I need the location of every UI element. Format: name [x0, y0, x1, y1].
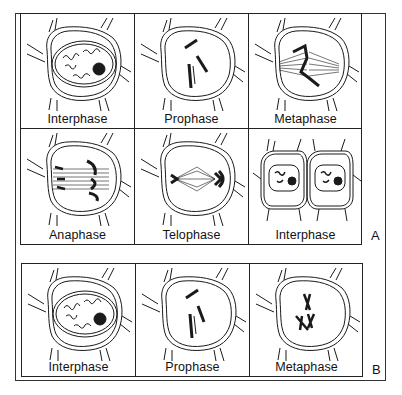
cell-b-metaphase: Metaphase — [250, 264, 363, 376]
series-b-grid: Interphase Prophase Metaphase — [21, 263, 363, 377]
stage-label: Interphase — [21, 112, 134, 126]
cell-a-anaphase: Anaphase — [21, 129, 135, 244]
cell-a-interphase-daughters: Interphase — [249, 129, 362, 244]
telophase-spindle-icon — [135, 129, 249, 227]
stage-label: Anaphase — [21, 228, 134, 242]
metaphase-x-chromosomes-icon — [250, 264, 363, 362]
stage-label: Prophase — [136, 360, 249, 374]
stage-label: Interphase — [22, 360, 135, 374]
cell-a-prophase: Prophase — [135, 14, 249, 129]
stage-label: Metaphase — [249, 112, 362, 126]
two-daughter-cells-icon — [249, 129, 362, 227]
prophase-chromosomes-icon — [135, 14, 249, 112]
cell-a-interphase: Interphase — [21, 14, 135, 129]
cell-a-telophase: Telophase — [135, 129, 249, 244]
series-a-label: A — [371, 228, 380, 243]
stage-label: Metaphase — [250, 360, 363, 374]
cell-a-metaphase: Metaphase — [249, 14, 362, 129]
series-b-label: B — [372, 362, 381, 377]
cell-b-prophase: Prophase — [136, 264, 250, 376]
interphase-nucleus-icon — [21, 14, 135, 112]
anaphase-spindle-icon — [21, 129, 135, 227]
interphase-nucleus-icon — [22, 264, 136, 362]
stage-label: Telophase — [135, 228, 248, 242]
stage-label: Interphase — [249, 228, 362, 242]
stage-label: Prophase — [135, 112, 248, 126]
cell-b-interphase: Interphase — [22, 264, 136, 376]
prophase-chromosomes-icon — [136, 264, 250, 362]
metaphase-spindle-icon — [249, 14, 362, 112]
series-a-grid: Interphase Prophase Metaphase — [20, 13, 362, 245]
